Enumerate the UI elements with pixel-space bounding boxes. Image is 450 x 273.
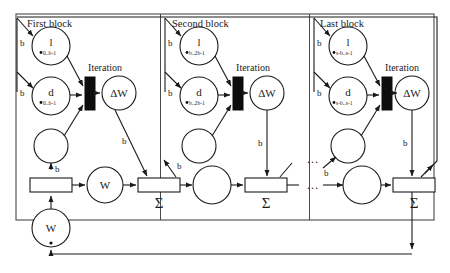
main-circle-block2 <box>193 166 231 204</box>
block1-input-label-bottom: b <box>20 88 25 98</box>
sum-rect-block2 <box>245 178 287 192</box>
block3-delta-out-label: b <box>403 138 408 148</box>
sum-rect-block3 <box>393 178 435 192</box>
block1-iteration-bar <box>85 77 95 110</box>
sum-label-block1: Σ <box>155 195 164 211</box>
block3-iteration-bar <box>382 77 392 110</box>
block3-l-to-bar <box>364 56 380 86</box>
block2-input-label-top: b <box>168 38 173 48</box>
block3-node-l-subscript: s-b..s-1 <box>336 50 353 56</box>
block3-input-label-top: b <box>317 38 322 48</box>
block2-delta-out-label: b <box>258 138 263 148</box>
block2-node-d-subscript: b..2b-1 <box>189 100 205 106</box>
block1-node-l-subscript: 0..b-1 <box>43 50 56 56</box>
block2-delta-w-label: ΔW <box>258 87 276 99</box>
sum-label-block3: Σ <box>410 195 419 211</box>
block2-node-l-subscript: b..2b-1 <box>189 50 205 56</box>
ellipsis-upper: ... <box>307 152 319 166</box>
block1-node-d-subscript: 0..b-1 <box>43 100 56 106</box>
block2-input-label-bottom: b <box>168 88 173 98</box>
block3-node-l-symbol: l <box>346 36 349 48</box>
block2-iteration-bar <box>233 77 243 110</box>
block1-iteration-label: Iteration <box>88 62 122 73</box>
block1-l-to-bar <box>67 56 83 86</box>
block2-node-state <box>182 129 216 163</box>
block1-node-l-symbol: l <box>49 36 52 48</box>
block2-node-d-symbol: d <box>196 86 202 98</box>
sum-rect-block1 <box>138 178 180 192</box>
diagram-svg: First block Second block Last block b b … <box>0 0 450 273</box>
ellipsis-lower: ... <box>307 178 319 192</box>
feedback-weight-bullet <box>49 241 52 244</box>
block2-node-l-symbol: l <box>197 36 200 48</box>
forward-weight-label: W <box>100 179 111 191</box>
block2-state-to-bar <box>212 105 231 136</box>
block2-arrow-to-bottom-node <box>165 72 181 88</box>
diagram-canvas: First block Second block Last block b b … <box>0 0 450 273</box>
block1-arrow-to-bottom-node <box>17 72 33 88</box>
block3-node-l-bullet <box>333 51 336 54</box>
block3-input-label-bottom: b <box>317 88 322 98</box>
sum1-to-state-node2 <box>164 160 176 177</box>
block1-pre-sum-label: b <box>177 161 182 171</box>
block1-node-l-bullet <box>40 51 43 54</box>
block1-delta-out-label: b <box>122 136 127 146</box>
block1-node-d-symbol: d <box>48 86 54 98</box>
block1-delta-to-sum <box>115 110 147 176</box>
right-top-feedback-arrow <box>425 165 433 173</box>
block3-node-d-bullet <box>333 101 336 104</box>
block3-arrow-to-bottom-node <box>314 72 330 88</box>
block1-input-label-top: b <box>20 38 25 48</box>
block3-iteration-label: Iteration <box>385 62 419 73</box>
main-circle-block3 <box>343 166 381 204</box>
block2-iteration-label: Iteration <box>236 62 270 73</box>
ellipsis-to-last-state <box>323 157 336 168</box>
block3-state-to-bar <box>361 105 380 136</box>
block1-delta-w-label: ΔW <box>110 87 128 99</box>
block3-node-d-subscript: s-b..s-1 <box>336 100 353 106</box>
block3-delta-w-label: ΔW <box>403 87 421 99</box>
block2-node-d-bullet <box>186 101 189 104</box>
block2-l-to-bar <box>215 56 231 86</box>
block1-node-d-bullet <box>40 101 43 104</box>
sum-label-block2: Σ <box>262 195 271 211</box>
right-top-feedback-wire <box>17 17 437 177</box>
block1-node-state <box>34 129 68 163</box>
block3-node-d-symbol: d <box>345 86 351 98</box>
block2-pre-sum-label: b <box>324 168 329 178</box>
block1-state-to-bar <box>64 105 83 136</box>
sum2-outgoing-stub <box>280 163 292 177</box>
feedback-weight-label: W <box>46 222 57 234</box>
first-rect-in-label: b <box>55 164 60 174</box>
block2-node-l-bullet <box>186 51 189 54</box>
block3-node-state <box>331 129 365 163</box>
main-rect-input <box>30 178 72 192</box>
